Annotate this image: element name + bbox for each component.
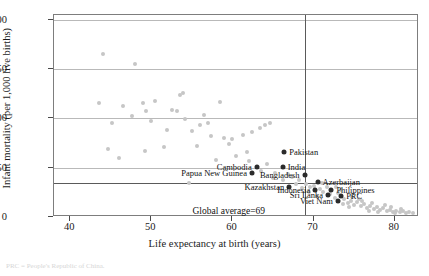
data-point (170, 108, 174, 112)
data-point (367, 209, 371, 213)
highlighted-data-point-philippines (329, 187, 334, 192)
data-point (250, 130, 254, 134)
y-tick-mark-150 (48, 68, 53, 69)
y-tick-label-150: 150 (0, 63, 7, 74)
data-point (206, 121, 210, 125)
data-point (106, 147, 110, 151)
data-point (234, 154, 238, 158)
data-point (101, 52, 105, 56)
point-label-prc: PRC (346, 192, 362, 201)
data-point (181, 91, 185, 95)
highlighted-data-point-prc (339, 193, 344, 198)
data-point (245, 150, 249, 154)
data-point (258, 126, 262, 130)
x-tick-label-50: 50 (130, 221, 170, 232)
x-tick-label-80: 80 (374, 221, 414, 232)
y-tick-label-100: 100 (0, 112, 7, 123)
data-point (162, 145, 166, 149)
y-tick-label-0: 0 (0, 211, 7, 222)
data-point (190, 129, 194, 133)
y-tick-mark-200 (48, 19, 53, 20)
data-point (198, 123, 202, 127)
data-point (341, 202, 345, 206)
data-point (183, 117, 187, 121)
data-point (149, 119, 153, 123)
data-point (370, 201, 374, 205)
x-tick-mark-50 (150, 216, 151, 221)
x-tick-mark-70 (313, 216, 314, 221)
figure-footnote: PRC = People's Republic of China. (6, 262, 105, 271)
data-point (187, 181, 191, 185)
data-point (97, 101, 101, 105)
plot-area: PakistanIndiaCambodiaPapua New GuineaBan… (53, 14, 418, 216)
data-point (133, 62, 137, 66)
x-tick-mark-40 (69, 216, 70, 221)
gridline-y-150 (54, 69, 417, 70)
data-point (175, 109, 179, 113)
data-point (263, 123, 267, 127)
global-average-lifeexp-label: Global average=69 (192, 206, 265, 216)
gridline-y-200 (54, 20, 417, 21)
data-point (399, 207, 403, 211)
x-tick-mark-80 (394, 216, 395, 221)
y-tick-label-200: 200 (0, 13, 7, 24)
data-point (209, 134, 213, 138)
data-point (153, 99, 157, 103)
y-tick-label-50: 50 (0, 161, 7, 172)
data-point (230, 137, 234, 141)
data-point (195, 144, 199, 148)
highlighted-data-point-viet-nam (335, 199, 340, 204)
data-point (130, 114, 134, 118)
point-label-bangladesh: Bangladesh (260, 170, 300, 179)
data-point (411, 211, 415, 215)
y-tick-mark-50 (48, 167, 53, 168)
data-point (227, 142, 231, 146)
data-point (141, 101, 145, 105)
y-tick-mark-0 (48, 216, 53, 217)
data-point (202, 113, 206, 117)
point-label-pakistan: Pakistan (289, 148, 318, 157)
point-label-viet-nam: Viet Nam (300, 197, 333, 206)
data-point (241, 133, 245, 137)
y-axis-label: Infant mortality (per 1,000 live births) (0, 0, 13, 216)
highlighted-data-point-azerbaijan (315, 180, 320, 185)
data-point (117, 156, 121, 160)
data-point (347, 205, 351, 209)
highlighted-data-point-bangladesh (302, 172, 307, 177)
x-tick-mark-60 (231, 216, 232, 221)
highlighted-data-point-cambodia (254, 164, 259, 169)
gridline-y-100 (54, 118, 417, 119)
x-axis-label: Life expectancy at birth (years) (0, 238, 429, 249)
data-point (121, 104, 125, 108)
x-tick-label-60: 60 (211, 221, 251, 232)
x-tick-label-40: 40 (49, 221, 89, 232)
y-tick-mark-100 (48, 117, 53, 118)
data-point (383, 203, 387, 207)
data-point (268, 121, 272, 125)
data-point (218, 100, 222, 104)
data-point (110, 121, 114, 125)
data-point (144, 109, 148, 113)
data-point (389, 205, 393, 209)
data-point (393, 211, 397, 215)
data-point (265, 162, 269, 166)
x-tick-label-70: 70 (293, 221, 333, 232)
data-point (222, 136, 226, 140)
data-point (165, 128, 169, 132)
highlighted-data-point-pakistan (282, 150, 287, 155)
figure-container: Infant mortality (per 1,000 live births)… (0, 0, 429, 276)
point-label-papua-new-guinea: Papua New Guinea (181, 169, 247, 178)
data-point (376, 210, 380, 214)
data-point (143, 149, 147, 153)
highlighted-data-point-papua-new-guinea (249, 171, 254, 176)
